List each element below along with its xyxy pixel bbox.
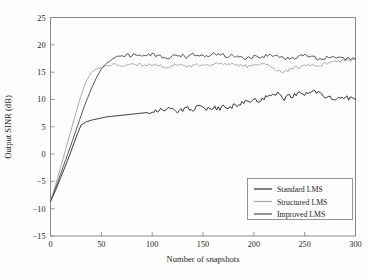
sinr-convergence-chart: −15−10−50510152025 050100150200250300 Nu… — [0, 0, 373, 280]
x-tick-label: 100 — [146, 240, 158, 249]
legend-label-improved-lms: Improved LMS — [277, 210, 325, 219]
legend[interactable]: Standard LMSStructured LMSImproved LMS — [248, 179, 353, 220]
x-tick-label: 150 — [197, 240, 209, 249]
x-tick-label: 50 — [97, 240, 105, 249]
y-tick-label: 15 — [37, 68, 45, 77]
y-tick-label: −10 — [33, 205, 46, 214]
y-tick-label: 25 — [37, 14, 45, 23]
x-tick-label: 0 — [48, 240, 52, 249]
y-tick-label: 5 — [41, 123, 45, 132]
legend-label-structured-lms: Structured LMS — [277, 198, 327, 207]
y-tick-label: −15 — [33, 232, 46, 241]
chart-background — [0, 0, 373, 280]
legend-label-standard-lms: Standard LMS — [277, 185, 323, 194]
x-axis-label: Number of snapshots — [166, 254, 240, 264]
y-tick-label: 0 — [41, 150, 45, 159]
y-tick-label: 20 — [37, 41, 45, 50]
y-tick-label: −5 — [37, 177, 46, 186]
x-tick-label: 200 — [248, 240, 260, 249]
figure: −15−10−50510152025 050100150200250300 Nu… — [0, 0, 373, 280]
y-axis-label: Output SINR (dB) — [3, 95, 13, 159]
y-tick-label: 10 — [37, 95, 45, 104]
x-tick-label: 300 — [349, 240, 361, 249]
x-tick-label: 250 — [299, 240, 311, 249]
